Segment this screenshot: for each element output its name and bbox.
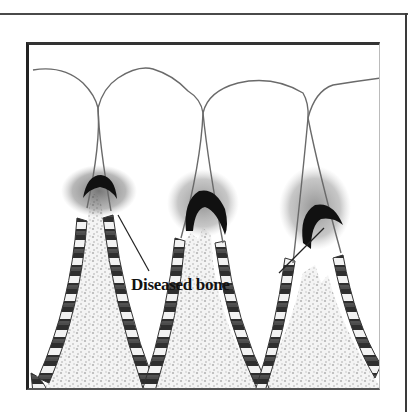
outer-frame-right-border [405, 13, 407, 412]
dental-illustration [29, 45, 380, 390]
leader-line-left [118, 215, 149, 271]
dental-illustration-frame: Diseased bone [26, 42, 380, 390]
diseased-bone-label: Diseased bone [131, 275, 230, 295]
outer-frame-top-border [0, 13, 408, 15]
